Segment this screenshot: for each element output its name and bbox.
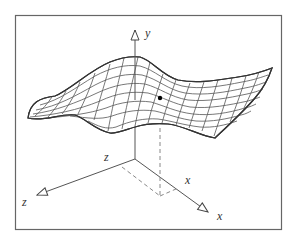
x-dashed-line bbox=[160, 189, 176, 196]
y-axis-label: y bbox=[144, 26, 151, 40]
surface-outline bbox=[28, 57, 272, 138]
surface-point bbox=[158, 96, 162, 100]
z-axis-label-far: z bbox=[21, 195, 27, 209]
x-axis-label-near: x bbox=[184, 173, 191, 187]
figure-container: y z z x x bbox=[0, 0, 295, 240]
z-dashed-line bbox=[122, 167, 160, 196]
axes-lower bbox=[37, 127, 208, 212]
projection-lines bbox=[122, 128, 176, 196]
x-axis-label-far: x bbox=[216, 209, 223, 223]
z-axis-label-near: z bbox=[103, 150, 109, 164]
surface-diagram: y z z x x bbox=[0, 0, 295, 240]
surface bbox=[28, 57, 272, 138]
z-axis bbox=[37, 159, 135, 195]
